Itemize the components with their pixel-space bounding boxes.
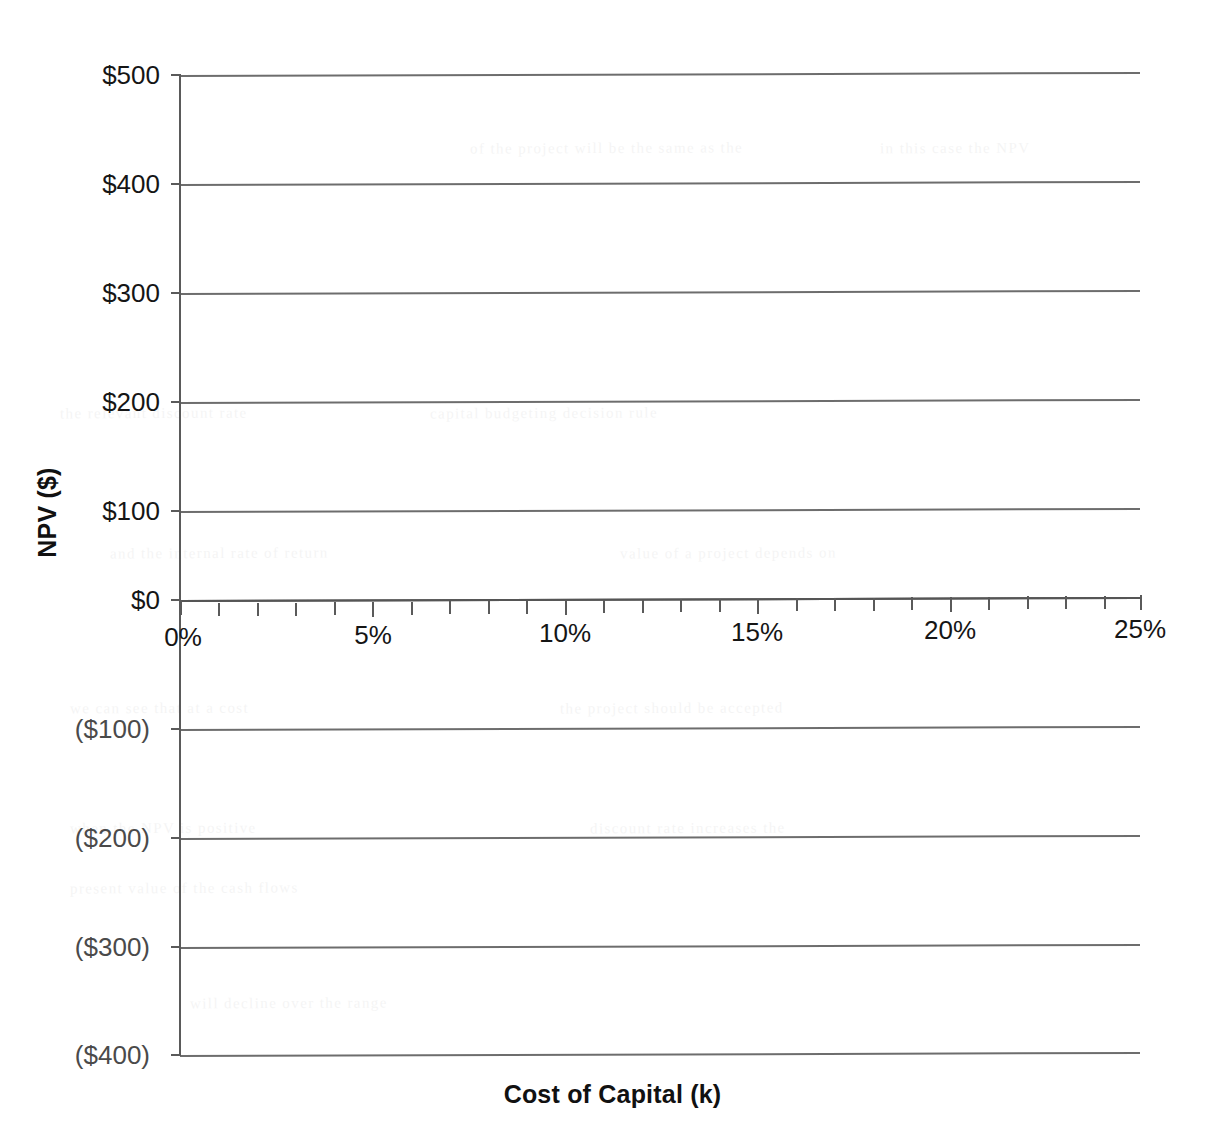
x-axis-label-10: 10% xyxy=(510,620,620,646)
x-axis-label-0: 0% xyxy=(128,624,238,650)
x-tick-10 xyxy=(565,600,567,615)
x-tick-8 xyxy=(488,601,490,614)
x-tick-6 xyxy=(411,602,413,615)
x-tick-23 xyxy=(1065,596,1067,609)
x-tick-3 xyxy=(295,603,297,616)
x-tick-22 xyxy=(1027,596,1029,609)
x-tick-14 xyxy=(719,599,721,612)
x-tick-17 xyxy=(834,598,836,611)
gridline-500 xyxy=(180,72,1140,77)
y-axis-label-neg100: ($100) xyxy=(30,716,150,742)
y-tick-100 xyxy=(171,510,181,512)
y-tick-neg200 xyxy=(171,837,181,839)
x-tick-20 xyxy=(950,597,952,612)
x-tick-24 xyxy=(1104,596,1106,609)
x-tick-21 xyxy=(988,597,990,610)
y-tick-neg400 xyxy=(171,1054,181,1056)
x-tick-16 xyxy=(796,598,798,611)
x-axis-label-15: 15% xyxy=(702,619,812,645)
y-tick-300 xyxy=(171,292,181,294)
gridline-neg300 xyxy=(180,944,1140,949)
gridline-400 xyxy=(180,181,1140,186)
y-axis-label-neg400: ($400) xyxy=(30,1042,150,1068)
x-tick-15 xyxy=(757,599,759,614)
x-axis-label-5: 5% xyxy=(318,622,428,648)
x-tick-25 xyxy=(1140,595,1142,610)
y-axis-label-300: $300 xyxy=(40,280,160,306)
gridline-300 xyxy=(180,290,1140,295)
y-tick-neg300 xyxy=(171,946,181,948)
x-tick-5 xyxy=(372,602,374,617)
x-axis-label-25: 25% xyxy=(1085,616,1195,642)
gridline-200 xyxy=(180,399,1140,404)
x-tick-11 xyxy=(603,600,605,613)
y-axis-label-500: $500 xyxy=(40,62,160,88)
y-tick-400 xyxy=(171,183,181,185)
gridline-100 xyxy=(180,508,1140,513)
x-tick-1 xyxy=(218,603,220,616)
gridline-neg100 xyxy=(180,726,1140,731)
x-tick-19 xyxy=(911,597,913,610)
y-tick-neg100 xyxy=(171,728,181,730)
x-tick-7 xyxy=(449,601,451,614)
y-axis-label-200: $200 xyxy=(40,389,160,415)
x-tick-13 xyxy=(680,599,682,612)
y-tick-500 xyxy=(171,74,181,76)
y-axis-label-neg300: ($300) xyxy=(30,934,150,960)
x-axis-title: Cost of Capital (k) xyxy=(0,1080,1225,1109)
x-tick-18 xyxy=(873,598,875,611)
x-tick-9 xyxy=(526,601,528,614)
plot-area xyxy=(180,75,1140,1055)
x-tick-2 xyxy=(257,603,259,616)
y-axis-label-0: $0 xyxy=(40,587,160,613)
gridline-neg200 xyxy=(180,835,1140,840)
x-tick-4 xyxy=(334,602,336,615)
y-tick-200 xyxy=(171,401,181,403)
gridline-neg400 xyxy=(180,1052,1140,1057)
y-axis-label-400: $400 xyxy=(40,171,160,197)
y-axis-spine xyxy=(179,74,181,1056)
npv-profile-chart: of the project will be the same as the i… xyxy=(0,0,1225,1143)
y-axis-title: NPV ($) xyxy=(33,448,62,578)
x-axis-label-20: 20% xyxy=(895,617,1005,643)
y-axis-label-neg200: ($200) xyxy=(30,825,150,851)
x-tick-12 xyxy=(642,600,644,613)
x-tick-0 xyxy=(180,600,182,615)
